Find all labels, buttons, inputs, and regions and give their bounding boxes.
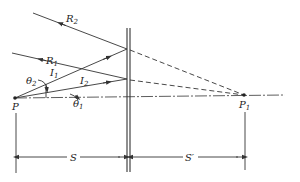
label-s-prime: S′	[185, 152, 195, 163]
label-i1: I1	[49, 67, 58, 80]
dimension-s: S	[16, 113, 127, 173]
dimension-s-prime: S′	[130, 112, 245, 170]
label-i2: I2	[79, 75, 89, 88]
plate	[127, 28, 130, 172]
label-p1: P1	[238, 99, 250, 112]
incident-ray-i1	[15, 49, 127, 98]
angle-theta2	[38, 80, 47, 98]
virtual-ray-r2	[130, 50, 244, 95]
label-theta2: θ2	[26, 75, 37, 88]
label-r2: R2	[65, 13, 79, 26]
ray-diagram: R2 R1 I1 I2 θ2 θ1 P P1 S S′	[0, 0, 300, 182]
reflected-ray-r2	[33, 13, 127, 49]
label-theta1: θ1	[73, 98, 84, 111]
point-p1	[242, 93, 246, 97]
label-p: P	[11, 101, 19, 112]
virtual-ray-r1	[130, 80, 244, 95]
point-p	[13, 96, 17, 100]
label-s: S	[70, 152, 77, 163]
